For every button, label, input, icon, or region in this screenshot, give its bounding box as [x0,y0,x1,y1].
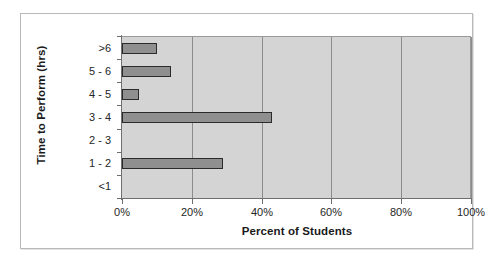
bar-row [122,60,470,83]
x-tick-label: 40% [251,206,273,218]
x-tick-mark [262,199,263,204]
y-tick-label: 3 - 4 [57,105,117,128]
x-axis-tick-marks [122,199,472,204]
bar-row [122,152,470,175]
x-tick-mark [122,199,123,204]
x-tick-label: 80% [390,206,412,218]
y-axis-title: Time to Perform (hrs) [35,30,51,180]
bar-5-6 [122,66,171,77]
x-tick-mark [471,199,472,204]
chart-frame: Time to Perform (hrs) >6 5 - 6 4 - 5 3 -… [20,13,473,249]
bar-row [122,129,470,152]
bar-1-2 [122,158,223,169]
bar-row [122,175,470,198]
bar-3-4 [122,112,272,123]
value-axis-line [121,35,122,200]
gridline [471,37,472,198]
y-tick-label: 2 - 3 [57,129,117,152]
bar-4-5 [122,89,139,100]
plot-area [122,36,471,198]
bar-row [122,106,470,129]
y-tick-label: 4 - 5 [57,82,117,105]
bar--6 [122,43,157,54]
x-axis-title: Percent of Students [122,225,472,237]
y-tick-label: 1 - 2 [57,152,117,175]
x-tick-mark [401,199,402,204]
x-tick-label: 0% [114,206,130,218]
y-axis-tick-labels: >6 5 - 6 4 - 5 3 - 4 2 - 3 1 - 2 <1 [57,36,117,198]
bar-series [122,37,470,198]
y-tick-label: 5 - 6 [57,59,117,82]
x-axis-tick-labels: 0%20%40%60%80%100% [122,206,472,220]
bar-row [122,37,470,60]
x-tick-label: 100% [457,206,485,218]
y-tick-label: >6 [57,36,117,59]
x-tick-label: 60% [320,206,342,218]
bar-row [122,83,470,106]
y-tick-label: <1 [57,175,117,198]
x-tick-mark [331,199,332,204]
x-tick-mark [192,199,193,204]
x-tick-label: 20% [181,206,203,218]
